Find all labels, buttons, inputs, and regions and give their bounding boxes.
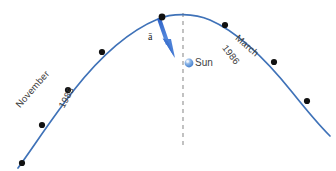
data-point [19,160,25,166]
data-point [39,122,45,128]
orbit-diagram [0,0,336,171]
orbit-path [18,15,330,168]
data-point [99,49,105,55]
data-point [304,98,310,104]
acceleration-vector-arrow-icon [157,18,175,58]
data-point [271,59,277,65]
data-point [159,14,166,21]
sun-sphere-icon [185,59,194,68]
data-point [65,87,71,93]
diagram-canvas: November 1985 March 1986 Sun ā [0,0,336,171]
data-point [222,22,228,28]
